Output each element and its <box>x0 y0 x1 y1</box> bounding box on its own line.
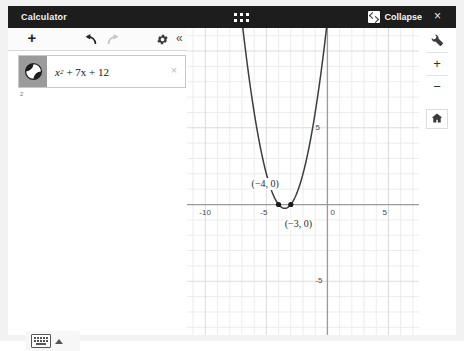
point-annotation: (−4, 0) <box>251 178 280 190</box>
collapse-label: Collapse <box>384 11 422 23</box>
grid-dots-icon[interactable] <box>234 13 250 22</box>
row-number-label: 2 <box>20 90 23 98</box>
minus-icon: − <box>433 80 441 94</box>
graph-tool-rail: + − <box>419 28 456 335</box>
home-icon <box>431 110 443 128</box>
add-expression-button[interactable]: + <box>25 31 39 45</box>
keyboard-toggle-button[interactable] <box>26 331 80 351</box>
y-tick-label: -5 <box>315 276 322 286</box>
wrench-icon <box>431 32 444 50</box>
graph-point[interactable] <box>276 202 281 207</box>
redo-arrow-icon[interactable] <box>104 32 120 45</box>
collapse-window-icon <box>368 11 380 23</box>
x-tick-label: -5 <box>260 208 267 218</box>
close-icon[interactable]: × <box>431 10 444 23</box>
window-header: Calculator Collapse × <box>8 6 456 28</box>
undo-arrow-icon[interactable] <box>84 32 100 45</box>
curve-graph-icon[interactable] <box>19 56 47 87</box>
expression-text[interactable]: x2+ 7x + 12 <box>55 56 109 87</box>
x-tick-label: -10 <box>199 208 211 218</box>
expression-panel: + « <box>8 28 188 335</box>
expression-toolbar: + « <box>8 28 187 51</box>
x-tick-label: 5 <box>382 208 386 218</box>
zoom-out-button[interactable]: − <box>426 77 448 97</box>
point-annotation: (−3, 0) <box>284 218 313 230</box>
plus-icon: + <box>433 57 441 71</box>
collapse-button[interactable]: Collapse <box>368 10 422 24</box>
caret-up-icon <box>55 339 63 344</box>
expression-row[interactable]: x2+ 7x + 12 × <box>18 55 186 88</box>
graph-plot <box>187 28 419 335</box>
graph-point[interactable] <box>288 202 293 207</box>
expression-exponent: 2 <box>60 68 64 76</box>
zoom-in-button[interactable]: + <box>426 54 448 74</box>
keyboard-icon <box>31 334 51 348</box>
x-tick-label: 0 <box>330 208 334 218</box>
delete-expression-icon[interactable]: × <box>168 64 180 76</box>
y-tick-label: 5 <box>315 123 319 133</box>
reset-view-button[interactable] <box>426 109 448 129</box>
window-title: Calculator <box>21 11 67 23</box>
gear-icon[interactable] <box>156 32 169 45</box>
graph-settings-button[interactable] <box>426 31 448 51</box>
graph-canvas[interactable] <box>187 28 419 335</box>
expression-rest: + 7x + 12 <box>66 66 109 78</box>
